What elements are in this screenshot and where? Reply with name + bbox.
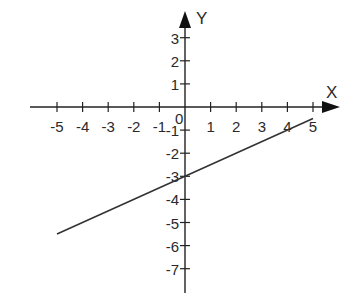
- y-tick-label: -4: [166, 191, 179, 208]
- x-tick-label: -5: [50, 118, 63, 135]
- axes: [30, 11, 340, 293]
- y-tick-label: 1: [171, 76, 179, 93]
- y-tick-label: -6: [166, 238, 179, 255]
- x-tick-label: 4: [283, 118, 291, 135]
- x-tick-label: -4: [76, 118, 89, 135]
- y-axis-arrow-icon: [179, 11, 191, 28]
- x-axis-arrow-icon: [322, 101, 340, 113]
- x-tick-label: -2: [127, 118, 140, 135]
- y-tick-label: -2: [166, 145, 179, 162]
- coordinate-plane: -5-4-3-2-112345321-1-2-3-4-5-6-7 X Y 0: [0, 0, 359, 305]
- y-tick-label: 2: [171, 53, 179, 70]
- x-tick-label: -1: [153, 118, 166, 135]
- x-tick-label: -3: [102, 118, 115, 135]
- x-tick-label: 1: [206, 118, 214, 135]
- x-tick-label: 2: [232, 118, 240, 135]
- y-axis-title: Y: [196, 9, 207, 28]
- y-tick-label: -7: [166, 261, 179, 278]
- y-tick-label: 3: [171, 30, 179, 47]
- origin-label: 0: [175, 110, 183, 127]
- x-tick-label: 3: [258, 118, 266, 135]
- x-axis-title: X: [326, 83, 337, 102]
- y-tick-label: -5: [166, 215, 179, 232]
